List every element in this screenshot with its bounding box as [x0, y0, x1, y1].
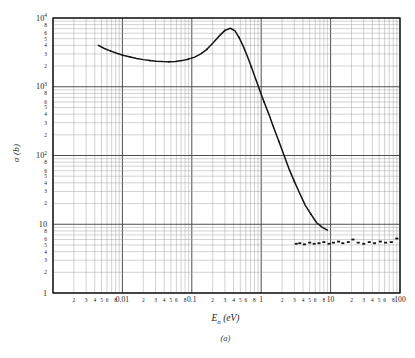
x-tick-label-minor: 3	[293, 297, 296, 303]
x-tick-label-major: 1	[259, 295, 263, 304]
y-tick-label-minor: 3	[44, 120, 47, 126]
curve-data-point	[293, 181, 295, 183]
curve-data-point	[168, 61, 170, 63]
tail-data-point	[332, 242, 335, 244]
x-tick-label-minor: 6	[383, 297, 386, 303]
tail-data-point	[384, 242, 387, 244]
x-tick-label-minor: 4	[232, 297, 235, 303]
x-tick-label-minor: 3	[85, 297, 88, 303]
y-tick-label-minor: 2	[44, 63, 47, 69]
x-tick-label-minor: 4	[302, 297, 305, 303]
y-tick-label-minor: 6	[44, 168, 47, 174]
x-tick-label-minor: 5	[239, 297, 242, 303]
x-tick-label-minor: 8	[323, 297, 326, 303]
y-tick-label-minor: 5	[44, 104, 47, 110]
y-tick-label-minor: 6	[44, 236, 47, 242]
x-tick-label-minor: 2	[211, 297, 214, 303]
x-tick-label-minor: 3	[362, 297, 365, 303]
x-tick-label-minor: 2	[73, 297, 76, 303]
x-tick-label-minor: 6	[106, 297, 109, 303]
y-tick-label-minor: 8	[44, 22, 47, 28]
curve-data-point	[206, 48, 208, 50]
tail-data-point	[362, 243, 365, 245]
y-tick-label-minor: 2	[44, 200, 47, 206]
y-tick-label-minor: 5	[44, 242, 47, 248]
x-axis-title-unit: (eV)	[221, 313, 240, 323]
curve-data-point	[187, 58, 189, 60]
tail-data-point	[328, 243, 331, 245]
x-tick-label-minor: 2	[350, 297, 353, 303]
curve-data-point	[129, 56, 131, 58]
y-tick-label-minor: 3	[44, 257, 47, 263]
y-tick-label-minor: 4	[44, 180, 47, 186]
tail-data-point	[322, 241, 325, 243]
x-tick-label-minor: 4	[93, 297, 96, 303]
curve-data-point	[310, 213, 312, 215]
curve-data-point	[278, 141, 280, 143]
log-log-cross-section-plot: 2345680.012345680.1234568123456810234568…	[0, 0, 415, 358]
x-tick-label-major: 10	[327, 295, 335, 304]
tail-data-point	[390, 241, 393, 243]
y-tick-label-minor: 2	[44, 269, 47, 275]
x-tick-label-minor: 6	[314, 297, 317, 303]
y-tick-label-minor: 5	[44, 173, 47, 179]
curve-data-point	[110, 50, 112, 52]
tail-data-point	[395, 238, 398, 240]
tail-data-point	[351, 239, 354, 241]
tail-data-point	[308, 242, 311, 244]
tail-data-point	[357, 242, 360, 244]
curve-data-point	[263, 101, 265, 103]
y-tick-label-minor: 6	[44, 99, 47, 105]
x-tick-label-major: 0.1	[187, 295, 197, 304]
curve-data-point	[250, 66, 252, 68]
curve-data-point	[238, 37, 240, 39]
y-tick-label-minor: 3	[44, 51, 47, 57]
x-tick-label-minor: 3	[224, 297, 227, 303]
y-tick-label-minor: 3	[44, 188, 47, 194]
curve-data-point	[224, 30, 226, 32]
x-tick-label-minor: 2	[142, 297, 145, 303]
y-axis-title: σ (b)	[11, 123, 21, 183]
tail-data-point	[379, 241, 382, 243]
y-tick-label-minor: 4	[44, 249, 47, 255]
x-tick-label-major: 100	[394, 295, 406, 304]
tail-data-point	[373, 242, 376, 244]
y-tick-label-minor: 4	[44, 42, 47, 48]
x-tick-label-minor: 3	[154, 297, 157, 303]
tail-data-point	[347, 241, 350, 243]
tail-data-point	[341, 242, 344, 244]
tail-data-point	[317, 242, 320, 244]
figure-caption: (a)	[0, 333, 415, 343]
x-tick-label-minor: 4	[163, 297, 166, 303]
x-tick-label-minor: 6	[244, 297, 247, 303]
x-tick-label-minor: 5	[308, 297, 311, 303]
tail-data-point	[337, 241, 340, 243]
tail-data-point	[295, 243, 298, 245]
x-tick-label-minor: 2	[281, 297, 284, 303]
tail-data-point	[303, 243, 306, 245]
y-tick-label-minor: 5	[44, 36, 47, 42]
x-tick-label-major: 0.01	[116, 295, 129, 304]
figure-container: 2345680.012345680.1234568123456810234568…	[0, 0, 415, 358]
tail-data-point	[298, 242, 301, 244]
y-tick-label-minor: 2	[44, 132, 47, 138]
x-tick-label-minor: 6	[175, 297, 178, 303]
y-tick-label-major: 10	[39, 220, 47, 229]
x-tick-label-minor: 5	[378, 297, 381, 303]
x-axis-title: En (eV)	[0, 313, 415, 326]
y-tick-label-minor: 4	[44, 111, 47, 117]
x-tick-label-minor: 5	[100, 297, 103, 303]
x-tick-label-minor: 4	[371, 297, 374, 303]
y-tick-label-minor: 8	[44, 90, 47, 96]
x-tick-label-minor: 5	[170, 297, 173, 303]
x-tick-label-minor: 8	[253, 297, 256, 303]
y-tick-label-minor: 8	[44, 159, 47, 165]
y-tick-label-minor: 6	[44, 30, 47, 36]
tail-data-point	[368, 241, 371, 243]
tail-data-point	[313, 243, 316, 245]
y-tick-label-major: 1	[43, 289, 47, 298]
curve-data-point	[149, 60, 151, 62]
